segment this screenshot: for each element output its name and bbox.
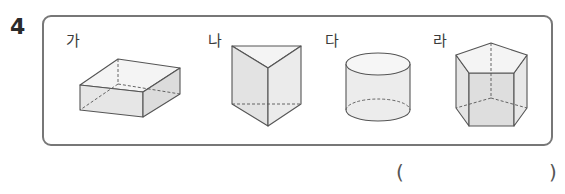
cylinder-figure: [346, 53, 410, 121]
triangular-prism-figure: [232, 46, 301, 126]
option-label-ga: 가: [66, 33, 80, 49]
option-label-da: 다: [325, 33, 339, 49]
answer-blank[interactable]: [412, 162, 548, 186]
pentagonal-prism-figure: [456, 43, 527, 126]
answer-close-paren: ): [549, 160, 557, 184]
rectangular-prism-figure: [80, 59, 180, 117]
option-label-ra: 라: [433, 33, 447, 49]
option-label-na: 나: [208, 33, 222, 49]
answer-open-paren: (: [396, 160, 404, 184]
